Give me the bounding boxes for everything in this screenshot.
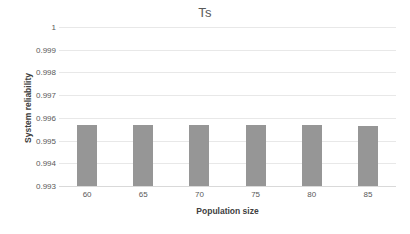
y-axis-tick-label: 0.993	[22, 182, 56, 191]
bar	[133, 125, 153, 186]
x-axis-tick-label: 75	[251, 190, 260, 199]
x-axis-tick-label: 70	[195, 190, 204, 199]
x-axis-tick-label: 80	[307, 190, 316, 199]
y-axis-tick-label: 0.999	[22, 45, 56, 54]
y-axis-tick-labels: 10.9990.9980.9970.9960.9950.9940.993	[22, 22, 56, 192]
bar	[77, 125, 97, 186]
bar	[358, 126, 378, 186]
x-axis-tick-label: 60	[83, 190, 92, 199]
y-axis-tick-label: 1	[22, 23, 56, 32]
x-axis-title: Population size	[59, 206, 396, 216]
x-axis-tick-label: 65	[139, 190, 148, 199]
bar-chart: Ts System reliability 10.9990.9980.9970.…	[0, 0, 410, 234]
y-axis-tick-label: 0.996	[22, 113, 56, 122]
y-axis-tick-label: 0.997	[22, 91, 56, 100]
y-axis-tick-label: 0.994	[22, 159, 56, 168]
plot-area	[59, 27, 396, 186]
bars-layer	[59, 27, 396, 186]
bar	[246, 125, 266, 186]
bar	[189, 125, 209, 186]
x-axis-tick-label: 85	[363, 190, 372, 199]
chart-title: Ts	[0, 5, 410, 20]
x-axis-tick-labels: 606570758085	[59, 190, 396, 204]
y-axis-tick-label: 0.995	[22, 136, 56, 145]
y-axis-tick-label: 0.998	[22, 68, 56, 77]
bar	[302, 125, 322, 186]
x-axis-line	[59, 186, 396, 187]
